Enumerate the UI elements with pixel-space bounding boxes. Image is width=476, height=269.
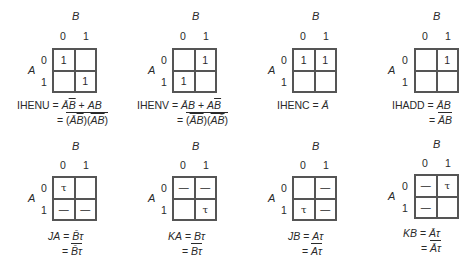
equation-line-1: IHENC = Ā (277, 99, 329, 111)
row-label-0: 0 (281, 182, 287, 194)
column-label-0: 0 (300, 30, 306, 42)
equation-rhs: ĀB (437, 99, 451, 111)
karnaugh-grid: — τ — (292, 176, 337, 221)
kmap-ja: B 0 1 A 0 1 τ — — JA = B̄τ = B̄τ (10, 135, 128, 265)
karnaugh-grid: 1 (414, 48, 459, 93)
equation-lhs: KA (168, 230, 182, 242)
equation-rhs: Bτ (194, 230, 205, 242)
cell-a1-b0 (173, 199, 195, 221)
equation-lhs: IHENV (137, 99, 169, 111)
equation-line-2: = Aτ (302, 245, 322, 257)
row-variable-label: A (148, 192, 155, 204)
equation-lhs: JA (48, 230, 60, 242)
karnaugh-grid: — τ — (414, 174, 459, 219)
cell-a0-b1: 1 (437, 49, 459, 71)
cell-a0-b0: 1 (53, 49, 75, 71)
column-variable-label: B (433, 10, 440, 22)
cell-a1-b1: — (75, 199, 97, 221)
cell-a0-b0 (173, 49, 195, 71)
equation-rhs: Ā (322, 99, 329, 111)
equation-rhs-alt: Āτ (430, 240, 441, 254)
equation-line-1: KA = Bτ (168, 230, 205, 242)
cell-a0-b0: 1 (293, 49, 315, 71)
equation-line-2: = ĀB (429, 114, 452, 126)
kmap-ihadd: B 0 1 A 0 1 1 IHADD = ĀB = ĀB (358, 0, 476, 130)
kmap-jb: B 0 1 A 0 1 — τ — JB = Aτ = Aτ (250, 135, 368, 265)
kmap-ihenu: B 0 1 A 0 1 1 1 IHENU = ĀB + AB = (ĀB)(A… (10, 0, 128, 130)
row-variable-label: A (388, 190, 395, 202)
column-label-1: 1 (445, 30, 451, 42)
row-label-1: 1 (41, 204, 47, 216)
equation-line-2: = Āτ (421, 242, 441, 254)
equation-lhs: IHENC (277, 99, 310, 111)
equation-line-2: = (ĀB)(AB) (57, 114, 108, 126)
row-label-1: 1 (161, 76, 167, 88)
equation-rhs-alt: Aτ (311, 243, 322, 257)
cell-a1-b0 (293, 71, 315, 93)
equation-line-1: IHENU = ĀB + AB (17, 99, 102, 111)
row-variable-label: A (28, 64, 35, 76)
equation-line-2: = (ĀB)(AB̄) (177, 114, 228, 126)
equation-line-1: KB = Āτ (403, 227, 440, 239)
cell-a0-b0: — (173, 177, 195, 199)
column-label-0: 0 (180, 159, 186, 171)
cell-a1-b1: τ (195, 199, 217, 221)
row-label-1: 1 (41, 76, 47, 88)
row-label-1: 1 (161, 204, 167, 216)
column-label-1: 1 (83, 30, 89, 42)
equation-rhs: B̄τ (72, 230, 83, 242)
cell-a0-b0 (415, 49, 437, 71)
cell-a0-b1 (75, 49, 97, 71)
kmap-ka: B 0 1 A 0 1 — — τ KA = Bτ = Bτ (130, 135, 248, 265)
column-label-1: 1 (323, 159, 329, 171)
equation-lhs: KB (403, 227, 417, 239)
column-label-0: 0 (422, 157, 428, 169)
row-variable-label: A (148, 64, 155, 76)
equation-line-1: JA = B̄τ (48, 230, 83, 242)
equation-lhs: IHENU (17, 99, 50, 111)
equation-line-2: = Bτ (182, 245, 202, 257)
column-variable-label: B (312, 140, 319, 152)
cell-a0-b1 (75, 177, 97, 199)
equation-rhs-alt: B̄τ (71, 243, 82, 257)
kmap-kb: B 0 1 A 0 1 — τ — KB = Āτ = Āτ (358, 135, 476, 265)
karnaugh-grid: — — τ (172, 176, 217, 221)
cell-a1-b1 (315, 71, 337, 93)
row-label-1: 1 (281, 76, 287, 88)
cell-a1-b1 (437, 71, 459, 93)
equation-line-2: = B̄τ (62, 245, 82, 257)
row-label-1: 1 (281, 204, 287, 216)
row-label-1: 1 (402, 202, 408, 214)
column-label-0: 0 (180, 30, 186, 42)
karnaugh-grid: τ — — (52, 176, 97, 221)
column-label-0: 0 (300, 159, 306, 171)
column-variable-label: B (72, 10, 79, 22)
cell-a1-b1 (195, 71, 217, 93)
kmap-ihenc: B 0 1 A 0 1 1 1 IHENC = Ā (250, 0, 368, 130)
equation-rhs: Aτ (312, 230, 323, 242)
equation-lhs: IHADD (392, 99, 425, 111)
karnaugh-grid: 1 1 (52, 48, 97, 93)
column-label-0: 0 (422, 30, 428, 42)
column-label-1: 1 (83, 159, 89, 171)
row-label-0: 0 (41, 182, 47, 194)
cell-a1-b1: 1 (75, 71, 97, 93)
row-label-0: 0 (402, 180, 408, 192)
row-variable-label: A (28, 192, 35, 204)
karnaugh-grid: 1 1 (172, 48, 217, 93)
equation-rhs: Āτ (429, 227, 440, 239)
cell-a1-b0: — (415, 197, 437, 219)
equation-line-1: IHENV = ĀB + AB (137, 99, 221, 111)
row-variable-label: A (268, 192, 275, 204)
column-label-1: 1 (323, 30, 329, 42)
column-label-0: 0 (60, 30, 66, 42)
cell-a0-b1: — (195, 177, 217, 199)
cell-a0-b0: τ (53, 177, 75, 199)
column-label-1: 1 (203, 30, 209, 42)
cell-a1-b0: 1 (173, 71, 195, 93)
row-label-0: 0 (161, 182, 167, 194)
equation-rhs-alt: ĀB (438, 112, 452, 126)
cell-a0-b1: 1 (315, 49, 337, 71)
column-label-1: 1 (445, 157, 451, 169)
equation-rhs-alt: Bτ (191, 243, 202, 257)
